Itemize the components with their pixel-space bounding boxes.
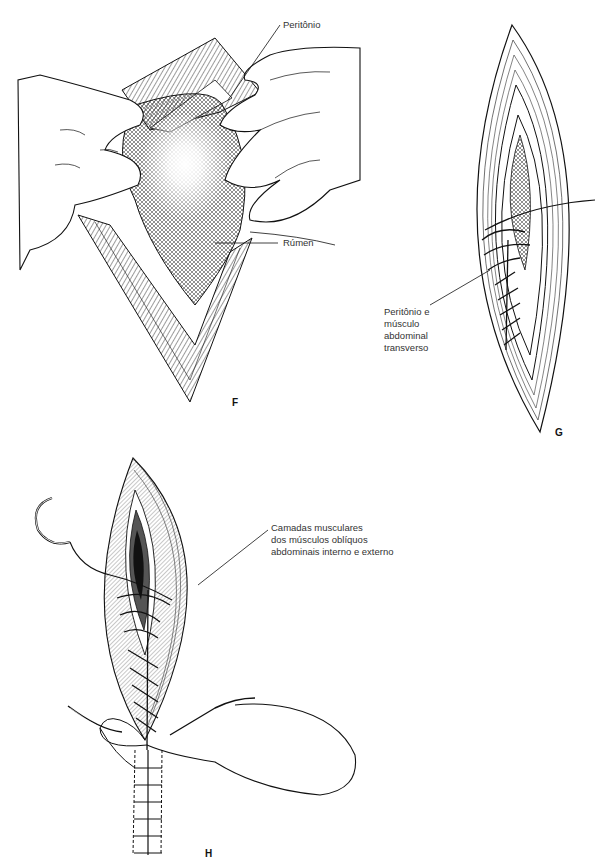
panel-f: Peritônio Rúmen F: [0, 0, 420, 420]
panel-letter-h: H: [205, 848, 212, 859]
panel-h: H: [20, 450, 610, 861]
panel-letter-f: F: [232, 397, 238, 408]
label-rumen: Rúmen: [283, 237, 314, 249]
label-line: Peritônio e: [384, 306, 429, 318]
label-line: dos músculos oblíquos: [271, 534, 394, 546]
label-line: músculo: [384, 318, 429, 330]
label-peritonio-musculo-transverso: Peritônio e músculo abdominal transverso: [384, 306, 429, 354]
label-line: transverso: [384, 342, 429, 354]
panel-g: G: [420, 0, 610, 440]
label-line: abdominal: [384, 330, 429, 342]
leader-line-camadas-musculares: [20, 450, 610, 861]
leader-line-rumen: [0, 0, 420, 420]
panel-letter-g: G: [555, 427, 563, 438]
label-camadas-musculares-obliquos: Camadas musculares dos músculos oblíquos…: [271, 522, 394, 558]
label-line: abdominais interno e externo: [271, 546, 394, 558]
label-line: Camadas musculares: [271, 522, 394, 534]
leader-line-peritonio-musculo: [420, 0, 610, 440]
